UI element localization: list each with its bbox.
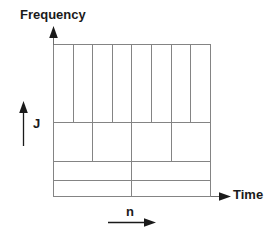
time-frequency-tiling-figure: Frequency Time J n: [0, 0, 278, 235]
scale-direction-arrow: [19, 101, 28, 146]
scale-arrow-head: [19, 101, 28, 113]
shift-direction-arrow: [108, 218, 156, 227]
scale-axis-label: J: [33, 117, 40, 130]
x-axis-label: Time: [233, 188, 263, 201]
band-0-dividers: [73, 45, 191, 123]
y-axis-label: Frequency: [20, 8, 86, 21]
shift-axis-label: n: [126, 205, 134, 218]
frequency-axis-arrowhead: [49, 26, 58, 38]
band-1-dividers: [93, 123, 171, 162]
time-axis-arrowhead: [219, 192, 231, 201]
shift-arrow-head: [144, 218, 156, 227]
